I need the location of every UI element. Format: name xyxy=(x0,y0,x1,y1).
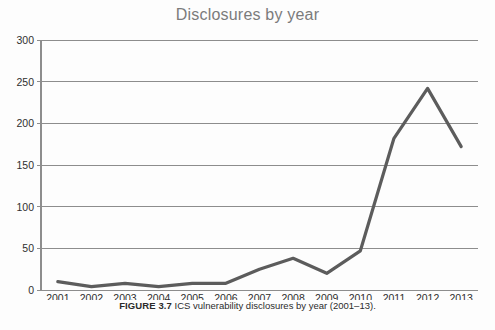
x-axis-label-2005: 2005 xyxy=(181,292,205,300)
x-axis-label-2010: 2010 xyxy=(349,292,373,300)
x-axis-label-2002: 2002 xyxy=(80,292,104,300)
x-axis-label-2009: 2009 xyxy=(315,292,339,300)
x-axis-label-2001: 2001 xyxy=(46,292,70,300)
figure-caption-text: ICS vulnerability disclosures by year (2… xyxy=(175,300,376,311)
x-axis-label-2012: 2012 xyxy=(416,292,440,300)
x-axis-label-2006: 2006 xyxy=(214,292,238,300)
y-axis-label-0: 0 xyxy=(28,284,34,296)
figure-caption-label: FIGURE 3.7 xyxy=(119,300,172,311)
figure-container: Disclosures by year 05010015020025030020… xyxy=(0,0,495,330)
data-series-disclosures xyxy=(58,88,461,286)
y-axis-label-200: 200 xyxy=(16,117,34,129)
x-axis-label-2013: 2013 xyxy=(450,292,474,300)
line-chart-plot: 0501001502002503002001200220032004200520… xyxy=(0,0,495,300)
x-axis-label-2008: 2008 xyxy=(281,292,305,300)
y-axis-label-150: 150 xyxy=(16,159,34,171)
y-axis-label-250: 250 xyxy=(16,76,34,88)
y-axis-label-100: 100 xyxy=(16,201,34,213)
figure-caption: FIGURE 3.7 ICS vulnerability disclosures… xyxy=(0,300,495,311)
y-axis-label-300: 300 xyxy=(16,34,34,46)
y-axis-label-50: 50 xyxy=(22,242,34,254)
x-axis-label-2003: 2003 xyxy=(113,292,137,300)
x-axis-label-2004: 2004 xyxy=(147,292,171,300)
x-axis-label-2007: 2007 xyxy=(248,292,272,300)
x-axis-label-2011: 2011 xyxy=(383,292,406,300)
